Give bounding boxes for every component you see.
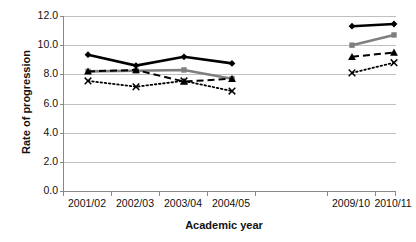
data-point-diamond <box>349 23 356 30</box>
data-point-square <box>181 67 186 72</box>
x-tick-label: 2004/05 <box>201 197 261 209</box>
series-line <box>352 35 394 45</box>
x-axis-title-text: Academic year <box>185 219 263 231</box>
data-point-x <box>391 59 398 66</box>
x-tick-mark <box>327 191 328 196</box>
series-line <box>352 63 394 73</box>
y-tick-label: 6.0 <box>24 98 58 108</box>
data-point-square <box>391 32 396 37</box>
series-line <box>88 55 232 66</box>
data-point-square <box>349 42 354 47</box>
x-tick-mark <box>207 191 208 196</box>
data-point-diamond <box>229 60 236 67</box>
series-layer <box>64 16 396 191</box>
x-tick-mark <box>63 191 64 196</box>
plot-area <box>63 16 395 191</box>
data-point-diamond <box>391 21 398 28</box>
y-tick-label: 12.0 <box>24 10 58 20</box>
x-tick-mark <box>111 191 112 196</box>
series-line <box>352 52 394 56</box>
x-tick-mark <box>395 191 396 196</box>
x-tick-label: 2010/11 <box>363 197 416 209</box>
x-tick-mark <box>255 191 256 196</box>
data-point-diamond <box>181 53 188 60</box>
series-series-3 <box>84 49 398 85</box>
data-point-diamond <box>85 51 92 58</box>
y-tick-label: 0.0 <box>24 185 58 195</box>
y-tick-label: 10.0 <box>24 39 58 49</box>
y-tick-label: 8.0 <box>24 68 58 78</box>
x-axis-tick-labels: 2001/022002/032003/042004/052009/102010/… <box>0 197 402 213</box>
y-tick-label: 4.0 <box>24 127 58 137</box>
x-axis-title: Academic year <box>0 219 402 231</box>
series-line <box>88 70 232 79</box>
series-line <box>352 24 394 26</box>
x-tick-mark <box>375 191 376 196</box>
y-tick-label: 2.0 <box>24 156 58 166</box>
x-tick-mark <box>159 191 160 196</box>
series-line <box>88 81 232 91</box>
